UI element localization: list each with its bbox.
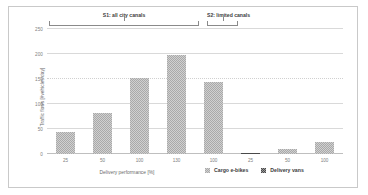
y-tick-label: 50 [38, 127, 43, 132]
scenario-s2-label: S2: limited canals [207, 12, 250, 18]
y-tick-label: 150 [35, 77, 43, 82]
bar [56, 132, 75, 155]
y-tick-label: 0 [40, 152, 43, 157]
bar [93, 113, 112, 154]
bracket-stem [223, 17, 224, 21]
chart-figure: Traffic flows [#vehicles/day] Delivery p… [8, 6, 358, 188]
bar [278, 149, 297, 155]
legend-item-delivery-vans: Delivery vans [261, 167, 303, 173]
y-tick-label: 200 [35, 52, 43, 57]
x-tick-label: 50 [100, 158, 105, 163]
gridline [47, 28, 343, 29]
gridline [47, 53, 343, 54]
x-tick-label: 100 [136, 158, 144, 163]
bar [204, 82, 223, 155]
x-tick-label: 25 [248, 158, 253, 163]
gridline [47, 128, 343, 129]
x-axis-line [47, 153, 343, 154]
bar [167, 55, 186, 154]
bracket-stem [124, 17, 125, 21]
y-tick-label: 250 [35, 27, 43, 32]
x-tick-label: 100 [321, 158, 329, 163]
legend-item-cargo-e-bikes: Cargo e-bikes [205, 167, 248, 173]
bar [241, 153, 260, 155]
scenario-s1-bracket [49, 21, 199, 26]
plot-area: 050100150200250 25501001301002550100 [47, 29, 343, 154]
bar [315, 142, 334, 155]
x-tick-label: 130 [173, 158, 181, 163]
legend-label: Delivery vans [270, 167, 303, 173]
x-tick-label: 100 [210, 158, 218, 163]
scenario-s2-bracket [207, 21, 238, 26]
chart-legend: Cargo e-bikes Delivery vans [205, 167, 304, 173]
x-tick-label: 50 [285, 158, 290, 163]
x-tick-label: 25 [63, 158, 68, 163]
bar [130, 78, 149, 154]
gridline [47, 78, 343, 79]
legend-swatch-icon [205, 168, 210, 173]
legend-label: Cargo e-bikes [214, 167, 248, 173]
x-axis-title: Delivery performance [%] [100, 170, 155, 175]
legend-swatch-icon [261, 168, 266, 173]
y-tick-label: 100 [35, 102, 43, 107]
gridline [47, 103, 343, 104]
